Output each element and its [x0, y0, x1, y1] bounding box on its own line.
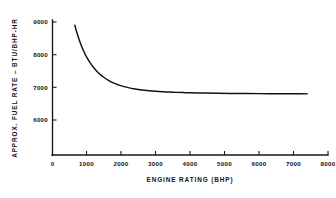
- x-tick-label-5000: 5000: [217, 160, 232, 167]
- x-tick-label-8000: 8000: [321, 160, 336, 167]
- y-axis-title: APPROX. FUEL RATE – BTU/BHP-HR: [11, 18, 18, 158]
- y-tick-label-8000: 8000: [33, 51, 48, 58]
- x-tick-label-6000: 6000: [252, 160, 267, 167]
- fuel-rate-curve: [75, 25, 307, 94]
- x-tick-label-1000: 1000: [79, 160, 94, 167]
- y-tick-label-9000: 9000: [33, 18, 48, 25]
- x-tick-label-4000: 4000: [183, 160, 198, 167]
- y-tick-label-7000: 7000: [33, 84, 48, 91]
- x-tick-label-3000: 3000: [148, 160, 163, 167]
- chart-plot-area: 9000 8000 7000 6000 0 1000 2000 3000 400…: [0, 0, 336, 198]
- x-tick-label-2000: 2000: [114, 160, 129, 167]
- fuel-rate-chart: 9000 8000 7000 6000 0 1000 2000 3000 400…: [0, 0, 336, 198]
- x-tick-label-0: 0: [51, 160, 55, 167]
- y-tick-label-6000: 6000: [33, 116, 48, 123]
- x-axis-title: ENGINE RATING (BHP): [147, 176, 234, 184]
- x-tick-label-7000: 7000: [286, 160, 301, 167]
